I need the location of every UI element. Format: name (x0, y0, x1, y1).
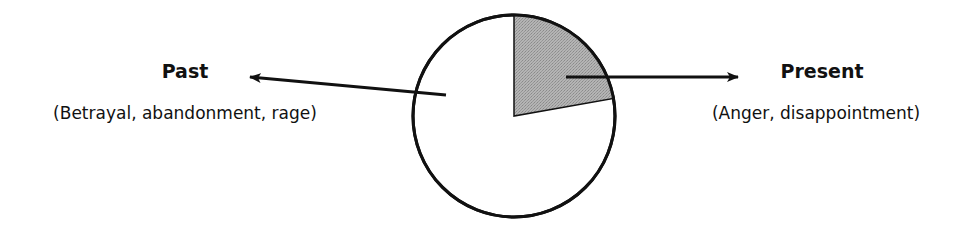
present-label: Present (781, 60, 864, 82)
present-wedge (514, 15, 613, 116)
past-description: (Betrayal, abandonment, rage) (53, 103, 317, 123)
present-description: (Anger, disappointment) (712, 103, 920, 123)
past-label: Past (162, 60, 209, 82)
